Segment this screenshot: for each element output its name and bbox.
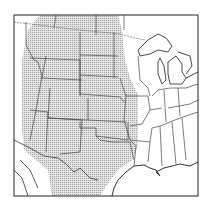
gulf-coast xyxy=(112,162,198,196)
us-map xyxy=(0,0,206,210)
lake-huron-erie xyxy=(178,52,198,78)
pacific-coast xyxy=(14,160,38,196)
lake-michigan xyxy=(158,58,166,84)
map-figure xyxy=(0,0,206,210)
michigan-lp xyxy=(168,56,186,84)
lake-superior xyxy=(138,34,172,56)
